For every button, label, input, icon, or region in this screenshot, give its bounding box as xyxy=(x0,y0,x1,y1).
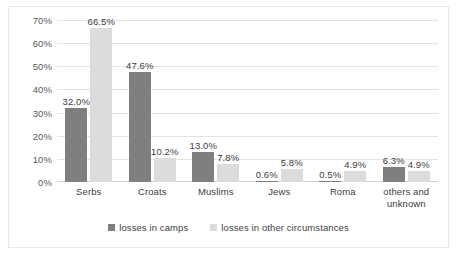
bar-group: 0.6%5.8% xyxy=(248,20,312,182)
bar-group: 32.0%66.5% xyxy=(57,20,121,182)
bar-value-label: 5.8% xyxy=(281,157,303,168)
y-axis-tick-label: 10% xyxy=(33,153,52,164)
bar-value-label: 6.3% xyxy=(383,155,405,166)
bar-column: 7.8% xyxy=(217,20,239,182)
bar-value-label: 13.0% xyxy=(190,140,217,151)
bar-group: 0.5%4.9% xyxy=(311,20,375,182)
y-axis-tick-label: 60% xyxy=(33,38,52,49)
bar[interactable] xyxy=(344,171,366,182)
bar[interactable] xyxy=(383,167,405,182)
bar-column: 10.2% xyxy=(154,20,176,182)
x-axis-categories: SerbsCroatsMuslimsJewsRomaothers and unk… xyxy=(57,186,438,209)
bar-column: 47.6% xyxy=(129,20,151,182)
bar-column: 0.6% xyxy=(256,20,278,182)
bar-column: 66.5% xyxy=(90,20,112,182)
bar-column: 4.9% xyxy=(408,20,430,182)
bar[interactable] xyxy=(217,164,239,182)
x-axis-category-label: others and unknown xyxy=(375,186,439,209)
bar-column: 0.5% xyxy=(319,20,341,182)
x-axis-category-label: Croats xyxy=(121,186,185,209)
y-axis: 70%60%50%40%30%20%10%0% xyxy=(14,20,52,182)
x-axis-category-label: Muslims xyxy=(184,186,248,209)
y-axis-tick-label: 40% xyxy=(33,84,52,95)
y-axis-tick-label: 0% xyxy=(38,177,52,188)
bar-value-label: 0.6% xyxy=(256,169,278,180)
y-axis-tick-label: 50% xyxy=(33,61,52,72)
x-axis-category-label: Jews xyxy=(248,186,312,209)
legend-swatch-icon xyxy=(108,224,115,231)
x-axis-category-label: Serbs xyxy=(57,186,121,209)
bar-value-label: 0.5% xyxy=(319,169,341,180)
bar-column: 32.0% xyxy=(65,20,87,182)
bar[interactable] xyxy=(90,28,112,182)
bar-column: 4.9% xyxy=(344,20,366,182)
bar-value-label: 66.5% xyxy=(88,16,115,27)
bar-value-label: 32.0% xyxy=(63,96,90,107)
y-axis-tick-label: 70% xyxy=(33,15,52,26)
bar[interactable] xyxy=(319,181,341,182)
bar-value-label: 7.8% xyxy=(217,152,239,163)
bar[interactable] xyxy=(129,72,151,182)
bar-group: 47.6%10.2% xyxy=(121,20,185,182)
bar[interactable] xyxy=(192,152,214,182)
y-axis-tick-label: 20% xyxy=(33,130,52,141)
bar-column: 13.0% xyxy=(192,20,214,182)
bar-group: 6.3%4.9% xyxy=(375,20,439,182)
y-axis-tick-label: 30% xyxy=(33,107,52,118)
legend-item[interactable]: losses in other circumstances xyxy=(210,222,349,233)
bar[interactable] xyxy=(281,169,303,182)
bar-group: 13.0%7.8% xyxy=(184,20,248,182)
bar-groups: 32.0%66.5%47.6%10.2%13.0%7.8%0.6%5.8%0.5… xyxy=(57,20,438,182)
bar-value-label: 4.9% xyxy=(344,159,366,170)
chart-container: 70%60%50%40%30%20%10%0% 32.0%66.5%47.6%1… xyxy=(0,0,457,255)
chart-legend: losses in campslosses in other circumsta… xyxy=(0,222,457,233)
bar-column: 5.8% xyxy=(281,20,303,182)
bar[interactable] xyxy=(408,171,430,182)
bar-value-label: 4.9% xyxy=(408,159,430,170)
bar-value-label: 47.6% xyxy=(126,60,153,71)
legend-swatch-icon xyxy=(210,224,217,231)
legend-item[interactable]: losses in camps xyxy=(108,222,188,233)
bar[interactable] xyxy=(65,108,87,182)
bar-column: 6.3% xyxy=(383,20,405,182)
bar[interactable] xyxy=(154,158,176,182)
legend-label: losses in camps xyxy=(119,222,188,233)
bar-value-label: 10.2% xyxy=(151,146,178,157)
x-axis-category-label: Roma xyxy=(311,186,375,209)
legend-label: losses in other circumstances xyxy=(221,222,349,233)
bar[interactable] xyxy=(256,181,278,182)
